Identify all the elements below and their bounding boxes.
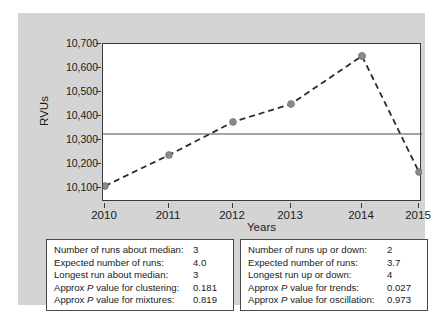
data-point-2012[interactable] xyxy=(230,119,237,126)
stat-label: Approx P value for mixtures: xyxy=(54,294,175,307)
y-tick-label-10200: 10,200 xyxy=(40,158,98,168)
x-axis-title: Years xyxy=(102,221,421,233)
data-point-2013[interactable] xyxy=(288,101,295,108)
y-tick-label-10300: 10,300 xyxy=(40,134,98,144)
stat-label: Expected number of runs: xyxy=(54,257,164,270)
stat-row: Number of runs about median: 3 xyxy=(54,244,227,257)
y-tick-mark-10200 xyxy=(96,163,101,164)
stat-row: Approx P value for clustering: 0.181 xyxy=(54,282,227,295)
stat-value: 0.181 xyxy=(193,282,227,295)
stat-label-p-symbol: P xyxy=(87,282,93,293)
stat-value: 4.0 xyxy=(193,257,227,270)
y-tick-label-10700: 10,700 xyxy=(40,38,98,48)
stat-label: Approx P value for oscillation: xyxy=(248,294,374,307)
stat-value: 3 xyxy=(193,244,227,257)
stat-label-prefix: Approx xyxy=(248,282,278,293)
x-tick-mark-2011 xyxy=(168,203,169,208)
stat-label: Expected number of runs: xyxy=(248,257,358,270)
x-tick-mark-2012 xyxy=(232,203,233,208)
stat-value: 3 xyxy=(193,269,227,282)
stat-row: Number of runs up or down: 2 xyxy=(248,244,421,257)
stat-label: Approx P value for trends: xyxy=(248,282,359,295)
stat-label-p-symbol: P xyxy=(281,294,287,305)
data-point-2011[interactable] xyxy=(166,152,173,159)
stat-label: Longest run up or down: xyxy=(248,269,351,282)
x-tick-label-2015: 2015 xyxy=(390,209,435,221)
data-point-2010[interactable] xyxy=(103,183,108,190)
data-point-2014[interactable] xyxy=(358,52,365,59)
data-line-rvus xyxy=(105,56,419,186)
stat-row: Approx P value for oscillation: 0.973 xyxy=(248,294,421,307)
stat-value: 0.819 xyxy=(193,294,227,307)
stat-row: Expected number of runs: 3.7 xyxy=(248,257,421,270)
x-tick-mark-2014 xyxy=(361,203,362,208)
y-tick-label-10400: 10,400 xyxy=(40,110,98,120)
stat-label-suffix: value for trends: xyxy=(290,282,359,293)
y-tick-mark-10100 xyxy=(96,187,101,188)
y-tick-mark-10600 xyxy=(96,67,101,68)
stat-label-suffix: value for oscillation: xyxy=(290,294,374,305)
stat-value: 4 xyxy=(387,269,421,282)
y-tick-mark-10700 xyxy=(96,43,101,44)
y-tick-label-10100: 10,100 xyxy=(40,182,98,192)
runs-about-median-stats-box: Number of runs about median: 3 Expected … xyxy=(46,239,234,311)
runs-up-or-down-stats-box: Number of runs up or down: 2 Expected nu… xyxy=(240,239,428,311)
stat-row: Approx P value for trends: 0.027 xyxy=(248,282,421,295)
x-tick-label-2011: 2011 xyxy=(140,209,196,221)
stat-row: Longest run about median: 3 xyxy=(54,269,227,282)
plot-area xyxy=(102,43,421,201)
stat-row: Expected number of runs: 4.0 xyxy=(54,257,227,270)
x-tick-mark-2010 xyxy=(104,203,105,208)
stat-value: 0.973 xyxy=(387,294,421,307)
stat-label-prefix: Approx xyxy=(248,294,278,305)
stat-label: Longest run about median: xyxy=(54,269,168,282)
x-tick-label-2013: 2013 xyxy=(262,209,318,221)
y-tick-mark-10300 xyxy=(96,139,101,140)
stat-row: Longest run up or down: 4 xyxy=(248,269,421,282)
x-tick-label-2012: 2012 xyxy=(204,209,260,221)
stat-value: 2 xyxy=(387,244,421,257)
plot-svg xyxy=(103,44,422,202)
stat-row: Approx P value for mixtures: 0.819 xyxy=(54,294,227,307)
y-axis-ticks: 10,700 10,600 10,500 10,400 10,300 10,20… xyxy=(36,43,98,201)
stat-value: 3.7 xyxy=(387,257,421,270)
data-point-2015[interactable] xyxy=(416,169,422,176)
stat-value: 0.027 xyxy=(387,282,421,295)
y-tick-label-10500: 10,500 xyxy=(40,86,98,96)
stat-label: Approx P value for clustering: xyxy=(54,282,179,295)
figure-panel: RVUs 10,700 10,600 10,500 10,400 10,300 … xyxy=(18,13,425,305)
stat-label-suffix: value for clustering: xyxy=(96,282,179,293)
x-tick-mark-2013 xyxy=(290,203,291,208)
stat-label: Number of runs about median: xyxy=(54,244,184,257)
x-tick-label-2014: 2014 xyxy=(333,209,389,221)
stat-label-prefix: Approx xyxy=(54,282,84,293)
y-tick-label-10600: 10,600 xyxy=(40,62,98,72)
y-tick-mark-10500 xyxy=(96,91,101,92)
runs-chart-figure: RVUs 10,700 10,600 10,500 10,400 10,300 … xyxy=(0,0,435,321)
y-tick-mark-10400 xyxy=(96,115,101,116)
stat-label-p-symbol: P xyxy=(87,294,93,305)
stat-label-p-symbol: P xyxy=(281,282,287,293)
x-tick-mark-2015 xyxy=(418,203,419,208)
stat-label-suffix: value for mixtures: xyxy=(96,294,174,305)
stat-label-prefix: Approx xyxy=(54,294,84,305)
x-tick-label-2010: 2010 xyxy=(76,209,132,221)
stat-label: Number of runs up or down: xyxy=(248,244,367,257)
